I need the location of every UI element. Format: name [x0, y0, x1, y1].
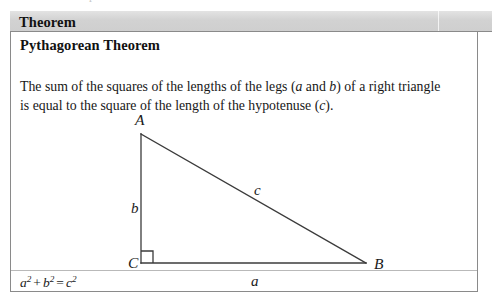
triangle-hypotenuse-c	[141, 134, 366, 263]
theorem-header-label: Theorem	[19, 13, 76, 31]
formula-b: b	[43, 275, 50, 290]
formula-equals: =	[54, 275, 66, 290]
formula-plus: +	[31, 275, 43, 290]
formula-divider	[11, 270, 477, 271]
right-angle-marker	[141, 251, 153, 263]
statement-part-4: ).	[325, 98, 333, 113]
theorem-subtitle: Pythagorean Theorem	[20, 36, 160, 54]
side-label-a: a	[251, 274, 259, 289]
side-label-b: b	[131, 201, 139, 216]
pythagorean-formula: a2+b2=c2	[20, 274, 77, 291]
formula-a: a	[20, 275, 27, 290]
theorem-statement: The sum of the squares of the lengths of…	[20, 77, 452, 116]
theorem-box: Theorem Pythagorean Theorem The sum of t…	[10, 11, 478, 292]
scan-artifact-top-line: o p r	[0, 0, 499, 9]
statement-part-2: and	[302, 79, 329, 94]
statement-part-1: The sum of the squares of the lengths of…	[20, 79, 296, 94]
vertex-label-b: B	[374, 256, 383, 271]
triangle-diagram-svg	[11, 12, 479, 293]
side-label-c: c	[254, 183, 261, 198]
vertex-label-c: C	[128, 255, 138, 270]
right-triangle-figure: A B C a b c	[11, 12, 479, 293]
formula-c-exponent: 2	[72, 274, 77, 284]
theorem-header-band: Theorem	[10, 11, 492, 32]
